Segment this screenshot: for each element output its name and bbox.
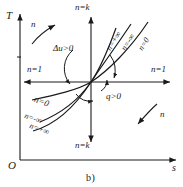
t-axis-label: T bbox=[6, 10, 12, 21]
q-label: q>0 bbox=[106, 92, 121, 101]
delta-u-label: Δu>0 bbox=[53, 44, 73, 53]
horizontal-right-label: n=1 bbox=[151, 65, 166, 74]
direction-marker-lower-right-label: n bbox=[160, 110, 165, 119]
ts-polytropic-diagram: T s O n=k n=k n=1 n=1 Δu>0 q>0 n n n=+∞ … bbox=[0, 0, 183, 187]
diagram-canvas bbox=[0, 0, 183, 187]
vertical-bottom-label: n=k bbox=[75, 141, 90, 150]
s-axis-label: s bbox=[172, 163, 176, 173]
vertical-top-label: n=k bbox=[75, 3, 90, 12]
frame-axes bbox=[17, 14, 176, 160]
direction-marker-upper-left-label: n bbox=[31, 20, 36, 29]
figure-caption: b) bbox=[86, 172, 95, 183]
horizontal-left-label: n=1 bbox=[27, 65, 42, 74]
polytrope-curve-steep bbox=[40, 28, 116, 122]
origin-label: O bbox=[8, 160, 16, 171]
delta-u-sector-arc bbox=[64, 50, 73, 84]
direction-arrow-lower-right bbox=[138, 104, 157, 124]
